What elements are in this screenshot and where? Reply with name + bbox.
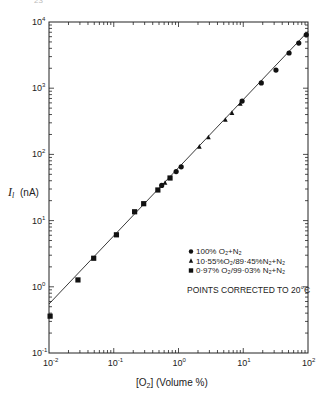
x-tick-label: 102 bbox=[302, 357, 316, 368]
circle-data-point bbox=[174, 169, 179, 174]
x-axis-title: [O2] (Volume %) bbox=[136, 377, 208, 389]
square-data-point bbox=[48, 314, 53, 319]
circle-data-point bbox=[273, 67, 278, 72]
plot-frame bbox=[49, 22, 308, 353]
annotation-text: POINTS CORRECTED TO 20°C bbox=[187, 285, 310, 295]
triangle-data-point bbox=[197, 144, 202, 149]
circle-data-point bbox=[179, 164, 184, 169]
ylabel-unit: (nA) bbox=[20, 187, 39, 198]
y-axis-title: Il (nA) bbox=[7, 185, 39, 200]
x-tick-label: 100 bbox=[173, 357, 187, 368]
y-tick-label: 103 bbox=[32, 82, 46, 93]
xlabel-prefix: [O bbox=[136, 377, 147, 388]
circle-data-point bbox=[296, 41, 301, 46]
y-tick-label: 104 bbox=[32, 16, 46, 27]
log-log-scatter-chart: 10-210-110010110210-1100101102103104 Il … bbox=[0, 0, 325, 393]
circle-data-point bbox=[304, 32, 309, 37]
axis-tick-labels: 10-210-110010110210-1100101102103104 bbox=[32, 16, 316, 368]
y-tick-label: 101 bbox=[32, 215, 46, 226]
square-data-point bbox=[114, 232, 119, 237]
ylabel-sub: l bbox=[12, 191, 15, 200]
triangle-data-point bbox=[163, 180, 168, 185]
legend-entry: 100% O₂+N₂ bbox=[196, 247, 242, 256]
axis-ticks bbox=[49, 22, 308, 353]
square-data-point bbox=[75, 277, 80, 282]
x-tick-label: 101 bbox=[237, 357, 251, 368]
x-tick-label: 10-2 bbox=[43, 357, 59, 368]
legend: 100% O₂+N₂10·55%O₂/89·45%N₂+N₂0·97% O₂/9… bbox=[189, 247, 285, 275]
legend-triangle-marker-icon bbox=[189, 258, 193, 262]
y-tick-label: 10-1 bbox=[32, 347, 48, 358]
y-tick-label: 102 bbox=[32, 148, 46, 159]
legend-square-marker-icon bbox=[189, 268, 193, 272]
y-tick-label: 100 bbox=[32, 281, 46, 292]
x-tick-label: 10-1 bbox=[108, 357, 124, 368]
circle-data-point bbox=[259, 80, 264, 85]
data-points bbox=[48, 32, 309, 319]
legend-entry: 10·55%O₂/89·45%N₂+N₂ bbox=[196, 257, 285, 266]
square-data-point bbox=[132, 209, 137, 214]
legend-entry: 0·97% O₂/99·03% N₂+N₂ bbox=[196, 266, 285, 275]
triangle-data-point bbox=[206, 135, 211, 140]
svg-text:[O2] (Volume %): [O2] (Volume %) bbox=[136, 377, 208, 389]
circle-data-point bbox=[286, 50, 291, 55]
svg-text:Il: Il bbox=[7, 185, 15, 200]
square-data-point bbox=[141, 201, 146, 206]
legend-circle-marker-icon bbox=[189, 249, 193, 253]
square-data-point bbox=[167, 175, 172, 180]
square-data-point bbox=[91, 256, 96, 261]
square-data-point bbox=[155, 187, 160, 192]
xlabel-suffix: ] (Volume %) bbox=[150, 377, 207, 388]
